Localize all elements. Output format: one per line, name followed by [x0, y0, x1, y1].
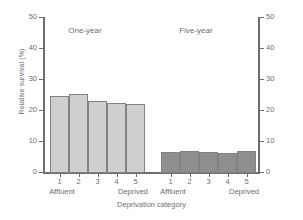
y-tick-label-right-10: 10	[266, 137, 303, 145]
y-tick-label-right-0: 0	[266, 168, 303, 176]
y-tick-label-right-30: 30	[266, 75, 303, 83]
x-end-label-g2-deprived: Deprived	[214, 187, 274, 196]
x-label-g2-3: 3	[200, 177, 218, 186]
y-tick-label-left-30: 30	[0, 75, 37, 83]
x-axis-label: Deprivation category	[0, 200, 303, 209]
y-tick-label-right-50: 50	[266, 13, 303, 21]
y-tick-label-left-50: 50	[0, 13, 37, 21]
y-tick-right-40	[260, 48, 264, 49]
y-tick-left-10	[39, 141, 43, 142]
bar-five-year-2	[180, 151, 199, 173]
bar-one-year-5	[126, 104, 145, 173]
y-tick-right-0	[260, 172, 264, 173]
bar-one-year-1	[50, 96, 69, 173]
x-label-g1-3: 3	[89, 177, 107, 186]
y-tick-right-20	[260, 110, 264, 111]
bar-five-year-4	[218, 153, 237, 173]
y-tick-label-left-0: 0	[0, 168, 37, 176]
bar-one-year-2	[69, 94, 88, 173]
y-tick-right-10	[260, 141, 264, 142]
bar-five-year-5	[237, 151, 256, 173]
y-tick-left-30	[39, 79, 43, 80]
y-tick-right-50	[260, 17, 264, 18]
y-tick-label-left-40: 40	[0, 44, 37, 52]
y-axis-right-line	[258, 17, 260, 173]
x-label-g2-2: 2	[181, 177, 199, 186]
relative-survival-bar-chart: Relative survival (%) 50 40 30 20 10 0 5…	[0, 0, 303, 220]
x-label-g1-1: 1	[51, 177, 69, 186]
y-tick-label-left-10: 10	[0, 137, 37, 145]
x-label-g1-4: 4	[108, 177, 126, 186]
x-label-g2-4: 4	[219, 177, 237, 186]
y-tick-label-left-20: 20	[0, 106, 37, 114]
bar-one-year-4	[107, 103, 126, 173]
y-tick-left-20	[39, 110, 43, 111]
y-tick-label-right-20: 20	[266, 106, 303, 114]
y-tick-right-30	[260, 79, 264, 80]
x-end-label-g1-affluent: Affluent	[32, 187, 92, 196]
y-tick-left-40	[39, 48, 43, 49]
group-title-one-year: One-year	[40, 26, 130, 35]
y-axis-left-line	[43, 17, 45, 173]
x-label-g2-1: 1	[162, 177, 180, 186]
bar-five-year-3	[199, 152, 218, 173]
y-tick-label-right-40: 40	[266, 44, 303, 52]
x-label-g2-5: 5	[238, 177, 256, 186]
group-title-five-year: Five-year	[151, 26, 241, 35]
y-tick-left-50	[39, 17, 43, 18]
bar-one-year-3	[88, 101, 107, 173]
x-label-g1-5: 5	[127, 177, 145, 186]
y-tick-left-0	[39, 172, 43, 173]
bar-five-year-1	[161, 152, 180, 173]
x-label-g1-2: 2	[70, 177, 88, 186]
x-end-label-g2-affluent: Affluent	[143, 187, 203, 196]
